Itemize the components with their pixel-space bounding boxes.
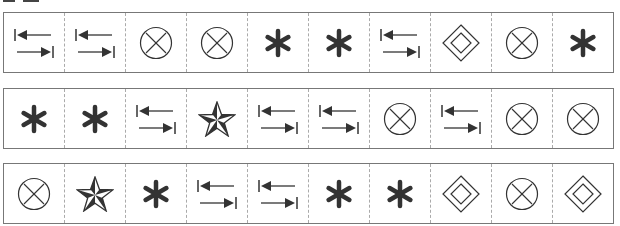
asterisk-icon	[568, 28, 598, 58]
opposite-arrows-icon	[257, 102, 299, 136]
nested-diamond-icon	[441, 23, 481, 63]
asterisk-icon	[19, 104, 49, 134]
symbol-cell	[4, 164, 65, 223]
symbol-cell	[431, 89, 492, 148]
opposite-arrows-icon	[196, 177, 238, 211]
symbol-cell	[187, 13, 248, 72]
asterisk-icon	[385, 179, 415, 209]
symbol-cell	[370, 164, 431, 223]
symbol-cell	[126, 13, 187, 72]
symbol-cell	[65, 13, 126, 72]
opposite-arrows-icon	[257, 177, 299, 211]
circle-x-icon	[16, 176, 52, 212]
symbol-cell	[65, 89, 126, 148]
symbol-row-3	[3, 163, 614, 224]
symbol-cell	[492, 13, 553, 72]
star-icon	[76, 176, 114, 212]
circle-x-icon	[504, 25, 540, 61]
symbol-cell	[248, 164, 309, 223]
circle-x-icon	[504, 101, 540, 137]
symbol-row-2	[3, 88, 614, 149]
symbol-cell	[553, 164, 613, 223]
circle-x-icon	[565, 101, 601, 137]
opposite-arrows-icon	[13, 26, 55, 60]
symbol-cell	[4, 13, 65, 72]
asterisk-icon	[80, 104, 110, 134]
circle-x-icon	[138, 25, 174, 61]
symbol-cell	[309, 13, 370, 72]
symbol-cell	[187, 164, 248, 223]
nested-diamond-icon	[441, 174, 481, 214]
opposite-arrows-icon	[318, 102, 360, 136]
circle-x-icon	[199, 25, 235, 61]
star-icon	[198, 101, 236, 137]
symbol-cell	[553, 13, 613, 72]
asterisk-icon	[324, 28, 354, 58]
opposite-arrows-icon	[135, 102, 177, 136]
symbol-cell	[248, 89, 309, 148]
circle-x-icon	[382, 101, 418, 137]
symbol-cell	[370, 89, 431, 148]
symbol-cell	[126, 89, 187, 148]
symbol-cell	[248, 13, 309, 72]
nested-diamond-icon	[563, 174, 603, 214]
symbol-cell	[431, 164, 492, 223]
symbol-cell	[309, 89, 370, 148]
symbol-cell	[187, 89, 248, 148]
symbol-cell	[553, 89, 613, 148]
symbol-cell	[492, 89, 553, 148]
circle-x-icon	[504, 176, 540, 212]
opposite-arrows-icon	[440, 102, 482, 136]
symbol-cell	[65, 164, 126, 223]
symbol-cell	[309, 164, 370, 223]
asterisk-icon	[263, 28, 293, 58]
asterisk-icon	[324, 179, 354, 209]
asterisk-icon	[141, 179, 171, 209]
symbol-cell	[126, 164, 187, 223]
opposite-arrows-icon	[74, 26, 116, 60]
opposite-arrows-icon	[379, 26, 421, 60]
heading-fragment	[3, 0, 43, 3]
symbol-row-1	[3, 12, 614, 73]
symbol-cell	[370, 13, 431, 72]
symbol-cell	[431, 13, 492, 72]
symbol-cell	[492, 164, 553, 223]
symbol-cell	[4, 89, 65, 148]
